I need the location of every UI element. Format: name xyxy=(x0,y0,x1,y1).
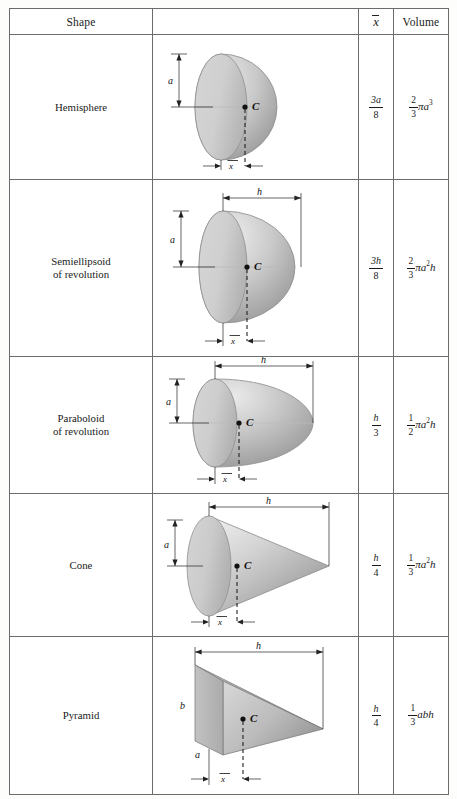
paraboloid-figure: h a C xyxy=(153,357,359,493)
volume-coef-numerator: 2 xyxy=(407,256,416,269)
volume-tail: h xyxy=(430,418,436,430)
paraboloid-diagram: h a C xyxy=(153,357,359,493)
volume-cell-hemisphere: 2 3 πa3 xyxy=(394,35,449,180)
xbar-denominator: 4 xyxy=(372,716,381,728)
xbar-numerator: h xyxy=(372,552,381,565)
dimension-label-a: a xyxy=(170,234,175,245)
xbar-fraction: h 3 xyxy=(372,412,381,437)
column-header-volume-label: Volume xyxy=(403,16,440,28)
volume-tail: h xyxy=(430,261,436,273)
figure-cell-paraboloid: h a C xyxy=(153,357,359,494)
xbar-numerator: h xyxy=(372,412,381,425)
xbar-cell-paraboloid: h 3 xyxy=(359,357,394,494)
volume-cell-paraboloid: 1 2 πa2h xyxy=(394,357,449,494)
xbar-fraction: 3a 8 xyxy=(369,94,383,119)
shape-name-cell-semiellipsoid: Semiellipsoid of revolution xyxy=(10,180,153,357)
volume-body: abh xyxy=(417,708,434,720)
volume-exponent: 3 xyxy=(429,99,433,107)
volume-body: πa xyxy=(418,100,429,112)
dimension-label-a: a xyxy=(164,539,169,550)
dimension-label-h: h xyxy=(256,640,261,651)
dimension-label-xbar: x xyxy=(228,161,233,171)
shape-name-line1: Hemisphere xyxy=(10,101,152,114)
centroid-label: C xyxy=(254,260,262,272)
volume-expression: 2 3 πa3 xyxy=(409,100,432,112)
table-row: Paraboloid of revolution xyxy=(10,357,449,494)
header-row: Shape x Volume xyxy=(10,9,449,35)
volume-coef-denominator: 2 xyxy=(407,426,416,438)
centroid-marker xyxy=(242,104,247,109)
figure-cell-hemisphere: a C x xyxy=(153,35,359,180)
figure-cell-cone: h a C xyxy=(153,494,359,637)
pyramid-diagram: h b a C x xyxy=(153,637,359,794)
xbar-denominator: 8 xyxy=(369,269,383,281)
xbar-fraction: h 4 xyxy=(372,552,381,577)
xbar-cell-cone: h 4 xyxy=(359,494,394,637)
shape-name-line1: Pyramid xyxy=(10,709,152,722)
xbar-cell-pyramid: h 4 xyxy=(359,637,394,795)
semiellipsoid-diagram: h a C xyxy=(153,181,359,356)
volume-tail: h xyxy=(430,558,436,570)
table-row: Semiellipsoid of revolution xyxy=(10,180,449,357)
column-header-shape: Shape xyxy=(10,9,153,35)
table-row: Hemisphere xyxy=(10,35,449,180)
centroids-reference-page: Shape x Volume Hemisphere xyxy=(0,0,457,799)
column-header-xbar-label: x xyxy=(373,14,379,30)
volume-coefficient: 2 3 xyxy=(409,95,418,119)
figure-cell-pyramid: h b a C x xyxy=(153,637,359,795)
centroid-label: C xyxy=(246,416,254,428)
volume-coefficient: 2 3 xyxy=(407,256,416,280)
shape-name-line1: Paraboloid xyxy=(10,412,152,425)
semiellipsoid-figure: h a C xyxy=(153,181,359,356)
shape-name-line2: of revolution xyxy=(10,425,152,438)
volume-coef-denominator: 3 xyxy=(409,108,418,120)
centroid-marker xyxy=(244,264,249,269)
xbar-denominator: 8 xyxy=(369,108,383,120)
centroid-marker xyxy=(240,716,245,721)
dimension-label-h: h xyxy=(266,495,271,506)
dimension-label-xbar: x xyxy=(222,474,227,484)
centroid-marker xyxy=(234,563,239,568)
cone-diagram: h a C xyxy=(153,494,359,636)
figure-cell-semiellipsoid: h a C xyxy=(153,180,359,357)
centroid-marker xyxy=(236,420,241,425)
dimension-label-h: h xyxy=(257,186,262,197)
centroids-of-common-shapes-table: Shape x Volume Hemisphere xyxy=(9,8,449,795)
centroid-label: C xyxy=(252,100,260,112)
table-row: Pyramid xyxy=(10,637,449,795)
column-header-shape-label: Shape xyxy=(66,16,95,28)
volume-cell-pyramid: 1 3 abh xyxy=(394,637,449,795)
xbar-cell-hemisphere: 3a 8 xyxy=(359,35,394,180)
volume-coef-denominator: 3 xyxy=(407,566,416,578)
volume-body: πa xyxy=(415,261,426,273)
volume-cell-semiellipsoid: 2 3 πa2h xyxy=(394,180,449,357)
volume-expression: 1 3 abh xyxy=(408,708,433,720)
shape-name-cell-paraboloid: Paraboloid of revolution xyxy=(10,357,153,494)
hemisphere-figure: a C x xyxy=(153,36,359,179)
xbar-fraction: h 4 xyxy=(372,703,381,728)
volume-coef-numerator: 1 xyxy=(407,413,416,426)
volume-coef-numerator: 1 xyxy=(407,553,416,566)
shape-name-cell-pyramid: Pyramid xyxy=(10,637,153,795)
column-header-xbar: x xyxy=(359,9,394,35)
volume-expression: 1 2 πa2h xyxy=(407,418,436,430)
volume-expression: 2 3 πa2h xyxy=(407,261,436,273)
shape-name-cell-hemisphere: Hemisphere xyxy=(10,35,153,180)
xbar-denominator: 3 xyxy=(372,426,381,438)
dimension-label-xbar: x xyxy=(217,617,222,627)
volume-cell-cone: 1 3 πa2h xyxy=(394,494,449,637)
dimension-label-xbar: x xyxy=(220,774,225,784)
column-header-volume: Volume xyxy=(394,9,449,35)
volume-body: πa xyxy=(415,418,426,430)
xbar-numerator: h xyxy=(372,703,381,716)
dimension-label-xbar: x xyxy=(230,336,235,346)
shape-name-line1: Semiellipsoid xyxy=(10,255,152,268)
shape-name-line2: of revolution xyxy=(10,268,152,281)
dimension-label-h: h xyxy=(261,357,266,365)
volume-coef-denominator: 3 xyxy=(408,716,417,728)
xbar-numerator: 3a xyxy=(369,94,383,107)
volume-expression: 1 3 πa2h xyxy=(407,558,436,570)
xbar-cell-semiellipsoid: 3h 8 xyxy=(359,180,394,357)
dimension-label-a: a xyxy=(166,396,171,407)
dimension-label-b: b xyxy=(180,700,185,711)
